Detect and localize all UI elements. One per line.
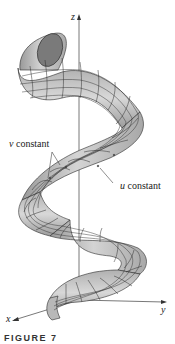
v-constant-label: v constant	[9, 139, 49, 149]
figure-caption: FIGURE 7	[4, 333, 58, 343]
y-axis-label: y	[161, 305, 165, 315]
tube-surface	[18, 30, 147, 320]
y-axis	[79, 300, 167, 304]
z-axis-label: z	[71, 12, 75, 22]
u-constant-label: u constant	[120, 181, 161, 191]
x-axis-label: x	[6, 314, 10, 324]
